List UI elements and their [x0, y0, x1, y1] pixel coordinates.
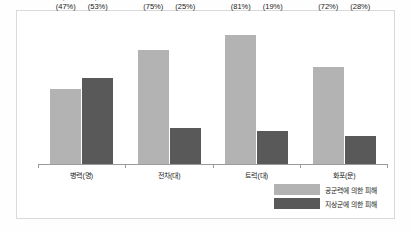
bar-ground-force[interactable] [345, 136, 376, 164]
bar-wrapper: 452 (75%) [138, 14, 169, 164]
bar-wrapper: 49,527 (47%) [50, 14, 81, 164]
bar-wrapper: 301 (72%) [313, 14, 344, 164]
legend-item-air-force[interactable]: 공군력에 의한 피해 [274, 184, 377, 195]
bar-value-label: 112 (28%) [350, 0, 370, 11]
bar-value-label: 452 (75%) [143, 0, 163, 11]
bar-groups: 49,527 (47%) 56,270 (53%) 452 [38, 14, 388, 164]
bar-value-label: 49,527 (47%) [54, 0, 77, 11]
bar-value-label: 56,270 (53%) [86, 0, 109, 11]
bar-air-force[interactable] [225, 35, 256, 164]
bar-percent: (72%) [318, 2, 338, 11]
bar-wrapper: 146 (19%) [257, 14, 288, 164]
bar-percent: (81%) [231, 2, 251, 11]
x-axis-label-artillery: 화포(문) [304, 170, 384, 180]
bar-value-label: 146 (19%) [263, 0, 283, 11]
bar-group: 301 (72%) 112 (28%) [313, 14, 376, 164]
bar-wrapper: 56,270 (53%) [82, 14, 113, 164]
chart-legend: 공군력에 의한 피해 지상군에 의한 피해 [274, 184, 377, 209]
legend-swatch-air-force [274, 184, 320, 195]
x-axis-tick [213, 164, 214, 168]
plot-area: 49,527 (47%) 56,270 (53%) 452 [38, 14, 388, 164]
x-axis-label-troops: 병력(명) [42, 170, 122, 180]
bar-percent: (53%) [88, 2, 108, 11]
legend-item-ground-force[interactable]: 지상군에 의한 피해 [274, 198, 377, 209]
bar-air-force[interactable] [313, 67, 344, 164]
bar-percent: (25%) [175, 2, 195, 11]
x-axis-tick [38, 164, 39, 168]
bar-ground-force[interactable] [257, 131, 288, 164]
x-axis-labels: 병력(명) 전차(대) 트럭(대) 화포(문) [38, 170, 388, 180]
bar-percent: (19%) [263, 2, 283, 11]
x-axis-label-trucks: 트럭(대) [217, 170, 297, 180]
bar-group: 637 (81%) 146 (19%) [225, 14, 288, 164]
bar-percent: (47%) [56, 2, 76, 11]
legend-swatch-ground-force [274, 198, 320, 209]
legend-label-air-force: 공군력에 의한 피해 [325, 185, 377, 195]
bar-wrapper: 637 (81%) [225, 14, 256, 164]
x-axis-tick [300, 164, 301, 168]
bar-value-label: 301 (72%) [318, 0, 338, 11]
bar-group: 49,527 (47%) 56,270 (53%) [50, 14, 113, 164]
bar-value-label: 637 (81%) [231, 0, 251, 11]
bar-wrapper: 143 (25%) [170, 14, 201, 164]
bar-group: 452 (75%) 143 (25%) [138, 14, 201, 164]
bar-percent: (28%) [350, 2, 370, 11]
bar-wrapper: 112 (28%) [345, 14, 376, 164]
x-axis-tick [387, 164, 388, 168]
legend-label-ground-force: 지상군에 의한 피해 [325, 199, 377, 209]
x-axis-tick [125, 164, 126, 168]
bar-air-force[interactable] [50, 89, 81, 164]
bar-ground-force[interactable] [170, 128, 201, 164]
chart-figure: 49,527 (47%) 56,270 (53%) 452 [0, 0, 411, 232]
bar-air-force[interactable] [138, 50, 169, 164]
x-axis-label-tanks: 전차(대) [129, 170, 209, 180]
bar-value-label: 143 (25%) [175, 0, 195, 11]
bar-ground-force[interactable] [82, 78, 113, 164]
bar-percent: (75%) [143, 2, 163, 11]
